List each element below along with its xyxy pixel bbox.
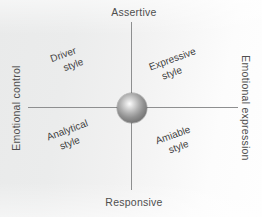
axis-label-emotional-control: Emotional control	[10, 38, 22, 178]
axis-label-responsive: Responsive	[6, 196, 262, 208]
axis-label-emotional-expression: Emotional expression	[240, 38, 252, 178]
social-styles-diagram: Assertive Responsive Emotional control E…	[0, 0, 262, 217]
sphere-icon	[117, 93, 147, 123]
axis-label-assertive: Assertive	[6, 6, 262, 18]
